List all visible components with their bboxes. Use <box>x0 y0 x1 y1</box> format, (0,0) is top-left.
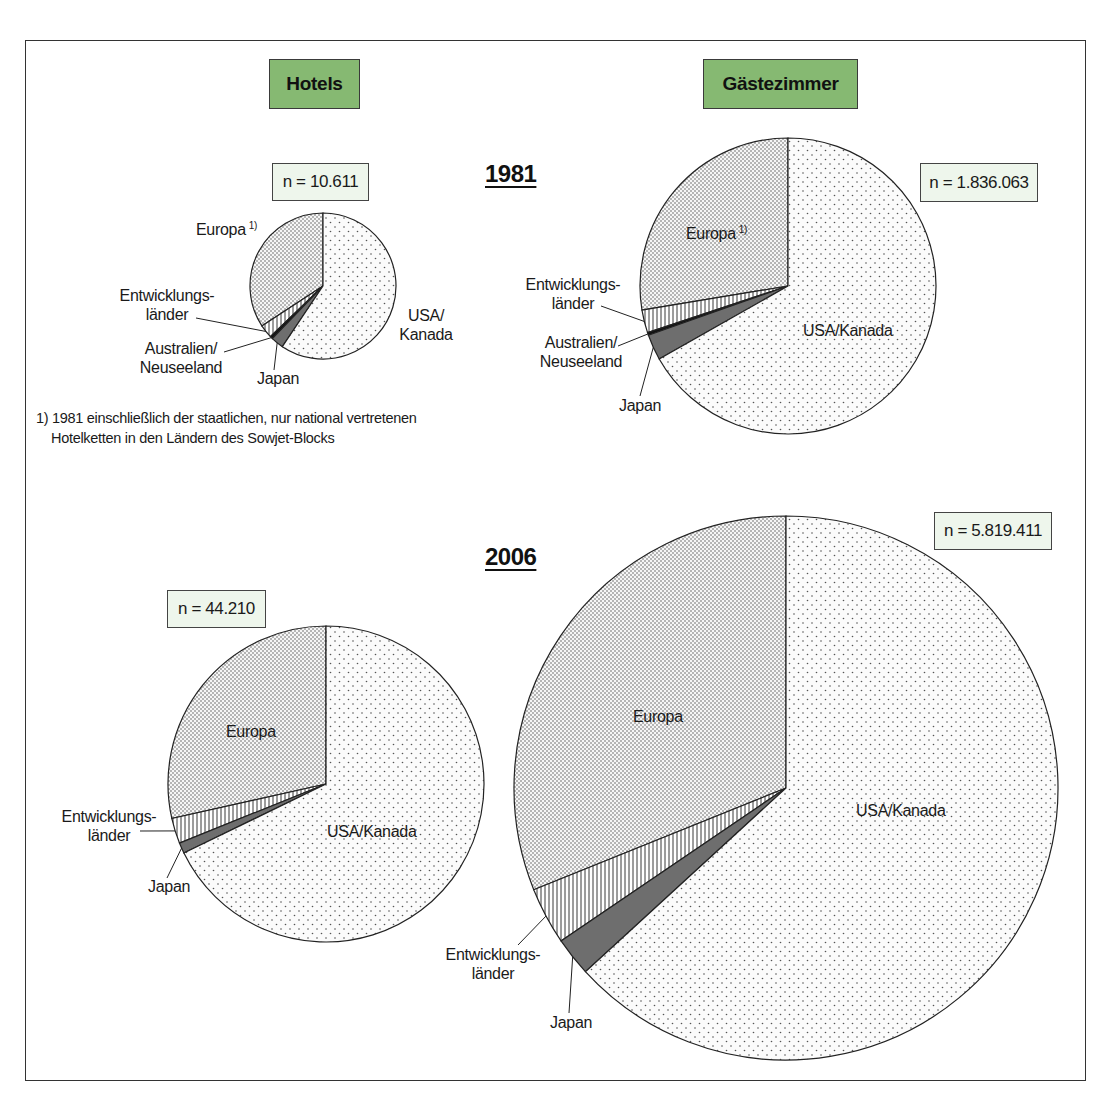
leader-entw-rooms-2006 <box>518 916 546 945</box>
label-aus-rooms-1981: Australien/Neuseeland <box>531 333 631 371</box>
label-japan-rooms-2006: Japan <box>550 1013 592 1032</box>
label-europa-rooms-1981: Europa1) <box>686 220 747 243</box>
pie-g-stezimmer <box>514 516 1058 1060</box>
label-europa-hotels-2006: Europa <box>226 722 276 741</box>
footnote-line1: 1) 1981 einschließlich der staatlichen, … <box>36 410 417 426</box>
label-japan-hotels-2006: Japan <box>148 877 190 896</box>
label-usa-hotels-2006: USA/Kanada <box>327 822 417 841</box>
leader-japan-rooms-2006 <box>569 957 573 1013</box>
label-entw-hotels-1981: Entwicklungs-länder <box>112 286 222 324</box>
label-entw-rooms-1981: Entwicklungs-länder <box>518 275 628 313</box>
label-usa-hotels-1981: USA/Kanada <box>394 306 458 344</box>
header-hotels: Hotels <box>269 59 360 109</box>
label-usa-rooms-2006: USA/Kanada <box>856 801 946 820</box>
header-gaestezimmer-label: Gästezimmer <box>722 73 838 95</box>
label-europa-hotels-1981: Europa1) <box>196 216 257 239</box>
leader-japan-hotels-1981 <box>274 343 277 370</box>
label-usa-rooms-1981: USA/Kanada <box>803 321 893 340</box>
header-hotels-label: Hotels <box>286 73 342 95</box>
footnote-line2: Hotelketten in den Ländern des Sowjet-Bl… <box>36 428 417 448</box>
header-gaestezimmer: Gästezimmer <box>703 59 858 109</box>
label-japan-hotels-1981: Japan <box>257 369 299 388</box>
label-japan-rooms-1981: Japan <box>619 396 661 415</box>
label-entw-hotels-2006: Entwicklungs-länder <box>54 807 164 845</box>
n-box-rooms-1981: n = 1.836.063 <box>920 163 1038 202</box>
label-aus-hotels-1981: Australien/Neuseeland <box>131 339 231 377</box>
pie-g-stezimmer <box>640 138 936 434</box>
label-europa-rooms-2006: Europa <box>633 707 683 726</box>
n-box-rooms-2006: n = 5.819.411 <box>934 512 1052 550</box>
leader-japan-hotels-2006 <box>167 848 182 878</box>
leader-japan-rooms-1981 <box>640 347 653 396</box>
pie-hotels <box>168 626 484 942</box>
year-1981: 1981 <box>485 160 536 188</box>
n-box-hotels-2006: n = 44.210 <box>167 590 266 628</box>
footnote: 1) 1981 einschließlich der staatlichen, … <box>36 408 417 448</box>
year-2006: 2006 <box>485 543 536 571</box>
label-entw-rooms-2006: Entwicklungs-länder <box>434 945 552 983</box>
pie-hotels <box>250 213 396 359</box>
n-box-hotels-1981: n = 10.611 <box>272 163 369 201</box>
leader-aus-hotels-1981 <box>224 338 271 352</box>
